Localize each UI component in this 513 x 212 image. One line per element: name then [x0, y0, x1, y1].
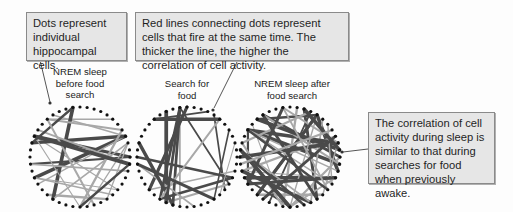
callout-lines: Red lines connecting dots represent cell… — [135, 12, 349, 61]
cell-network-search-food — [135, 105, 238, 208]
panel-label-nrem-after: NREM sleep after food search — [252, 78, 332, 101]
cell-network-nrem-after — [238, 105, 341, 208]
callout-correlation: The correlation of cell activity during … — [368, 112, 495, 184]
panel-label-search-food: Search for food — [162, 78, 212, 101]
panel-label-nrem-before: NREM sleep before food search — [50, 66, 110, 101]
leader-dot-dots — [48, 101, 51, 104]
leader-dot-lines — [211, 108, 214, 111]
leader-dot-correlation — [340, 150, 343, 153]
leader-line-correlation — [343, 149, 368, 152]
cell-network-nrem-before — [28, 105, 131, 208]
callout-dots: Dots represent individual hippocampal ce… — [26, 12, 127, 61]
